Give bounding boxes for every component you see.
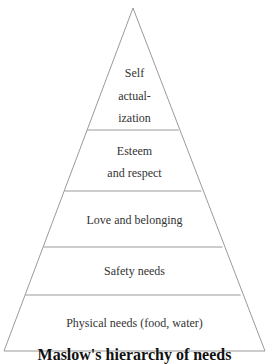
level-esteem-line1: Esteem <box>0 144 269 158</box>
level-love-belonging: Love and belonging <box>0 213 269 227</box>
level-self-actualization-line3: ization <box>0 111 269 125</box>
diagram-caption: Maslow's hierarchy of needs <box>0 346 269 364</box>
level-self-actualization-line1: Self <box>0 66 269 80</box>
level-physical-needs: Physical needs (food, water) <box>0 316 269 330</box>
level-self-actualization-line2: actual- <box>0 89 269 103</box>
level-safety-needs: Safety needs <box>0 264 269 278</box>
level-esteem-line2: and respect <box>0 166 269 180</box>
